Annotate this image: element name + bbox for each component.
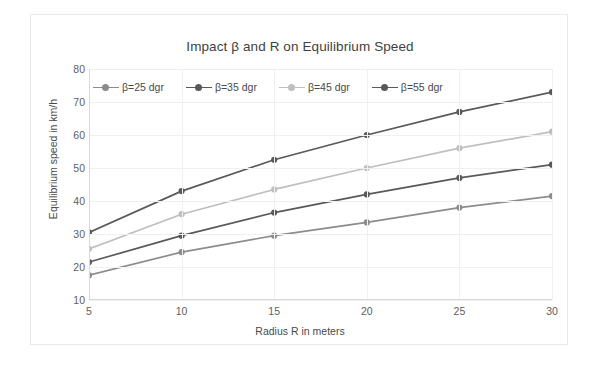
gridline-vertical bbox=[274, 69, 275, 300]
y-tick-label: 60 bbox=[73, 129, 85, 141]
gridline-vertical bbox=[367, 69, 368, 300]
legend-label: β=25 dgr bbox=[122, 81, 164, 93]
x-axis-tick-labels: 51015202530 bbox=[89, 305, 552, 321]
gridline-vertical bbox=[552, 69, 553, 300]
gridline-horizontal bbox=[89, 135, 552, 136]
series-1 bbox=[89, 193, 552, 278]
legend-item-3[interactable]: β=45 dgr bbox=[279, 81, 350, 93]
x-axis-line bbox=[89, 299, 552, 300]
gridline-horizontal bbox=[89, 102, 552, 103]
legend-swatch-icon bbox=[93, 83, 119, 92]
gridline-vertical bbox=[459, 69, 460, 300]
y-tick-label: 40 bbox=[73, 195, 85, 207]
x-tick-label: 5 bbox=[86, 305, 92, 317]
series-line bbox=[89, 196, 552, 275]
y-tick-label: 80 bbox=[73, 63, 85, 75]
legend-label: β=55 dgr bbox=[401, 81, 443, 93]
legend-item-1[interactable]: β=25 dgr bbox=[93, 81, 164, 93]
x-tick-label: 25 bbox=[454, 305, 466, 317]
legend-item-4[interactable]: β=55 dgr bbox=[372, 81, 443, 93]
plot-area bbox=[89, 69, 552, 300]
chart-legend: β=25 dgrβ=35 dgrβ=45 dgrβ=55 dgr bbox=[93, 81, 443, 93]
chart-container: Impact β and R on Equilibrium Speed Equi… bbox=[30, 14, 568, 345]
legend-swatch-icon bbox=[372, 83, 398, 92]
series-2 bbox=[89, 162, 552, 266]
gridline-horizontal bbox=[89, 168, 552, 169]
gridline-horizontal bbox=[89, 300, 552, 301]
legend-item-2[interactable]: β=35 dgr bbox=[186, 81, 257, 93]
series-line bbox=[89, 132, 552, 249]
x-tick-label: 10 bbox=[176, 305, 188, 317]
gridline-horizontal bbox=[89, 234, 552, 235]
x-tick-label: 20 bbox=[361, 305, 373, 317]
x-tick-label: 15 bbox=[268, 305, 280, 317]
legend-swatch-icon bbox=[279, 83, 305, 92]
chart-title: Impact β and R on Equilibrium Speed bbox=[31, 39, 569, 54]
x-axis-title: Radius R in meters bbox=[31, 325, 569, 337]
y-tick-label: 20 bbox=[73, 261, 85, 273]
gridline-horizontal bbox=[89, 201, 552, 202]
series-line bbox=[89, 92, 552, 232]
legend-swatch-icon bbox=[186, 83, 212, 92]
x-tick-label: 30 bbox=[546, 305, 558, 317]
y-tick-label: 70 bbox=[73, 96, 85, 108]
series-layer bbox=[89, 69, 552, 300]
y-axis-tick-labels: 1020304050607080 bbox=[57, 69, 85, 300]
y-axis-line bbox=[89, 69, 90, 300]
gridline-horizontal bbox=[89, 69, 552, 70]
gridline-horizontal bbox=[89, 267, 552, 268]
series-4 bbox=[89, 89, 552, 235]
y-tick-label: 50 bbox=[73, 162, 85, 174]
figure-canvas: Impact β and R on Equilibrium Speed Equi… bbox=[0, 0, 601, 366]
y-tick-label: 10 bbox=[73, 294, 85, 306]
legend-label: β=45 dgr bbox=[308, 81, 350, 93]
legend-label: β=35 dgr bbox=[215, 81, 257, 93]
gridline-vertical bbox=[182, 69, 183, 300]
y-tick-label: 30 bbox=[73, 228, 85, 240]
